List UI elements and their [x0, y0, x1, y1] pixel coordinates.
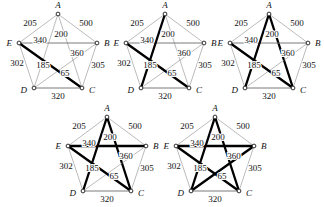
- panel-2: 20550020034036030218565305320ABCDE: [110, 0, 220, 104]
- edge-weight-ac: 200: [161, 29, 175, 39]
- graph-canvas-5: 20550020034036030218565305320ABCDE: [160, 103, 270, 207]
- vertex-label-a: A: [265, 0, 272, 10]
- vertex-a: [163, 12, 167, 16]
- vertex-a: [213, 115, 217, 119]
- vertex-a: [267, 12, 271, 16]
- vertex-d: [139, 86, 143, 90]
- edge-weight-ac: 200: [103, 132, 117, 142]
- vertex-d: [243, 86, 247, 90]
- edge-weight-ed: 302: [117, 58, 131, 68]
- vertex-label-a: A: [103, 103, 110, 113]
- edge-weight-ad: 185: [193, 163, 207, 173]
- edge-weight-ec: 65: [110, 171, 120, 181]
- vertex-label-a: A: [211, 103, 218, 113]
- edge-ad-selected: [191, 117, 215, 191]
- edge-weight-ae: 205: [23, 18, 37, 28]
- vertex-label-c: C: [300, 85, 307, 95]
- edge-weight-eb: 340: [190, 138, 204, 148]
- vertex-d: [189, 189, 193, 193]
- edge-weight-ed: 302: [221, 58, 235, 68]
- vertex-c: [129, 189, 133, 193]
- edge-weight-ab: 500: [186, 18, 200, 28]
- vertex-c: [80, 86, 84, 90]
- vertex-e: [17, 41, 21, 45]
- vertex-c: [237, 189, 241, 193]
- vertex-d: [32, 86, 36, 90]
- edge-weight-db: 360: [227, 151, 241, 161]
- graph-canvas-1: 20550020034036030218565305320ABCDE: [3, 0, 113, 104]
- edge-weight-ae: 205: [180, 121, 194, 131]
- edge-ad: [34, 14, 58, 88]
- edge-weight-ad: 185: [36, 60, 50, 70]
- edge-weight-ad: 185: [85, 163, 99, 173]
- graph-canvas-3: 20550020034036030218565305320ABCDE: [214, 0, 324, 104]
- vertex-label-e: E: [55, 141, 62, 151]
- edge-weight-ae: 205: [72, 121, 86, 131]
- edge-weight-eb: 340: [82, 138, 96, 148]
- edge-weight-dc: 320: [262, 91, 276, 101]
- edge-weight-ac: 200: [54, 29, 68, 39]
- edge-weight-ec: 65: [61, 68, 71, 78]
- panel-4: 20550020034036030218565305320ABCDE: [52, 103, 162, 207]
- vertex-label-b: B: [153, 141, 159, 151]
- vertex-label-b: B: [315, 38, 321, 48]
- edge-weight-eb: 340: [244, 35, 258, 45]
- vertex-b: [95, 41, 99, 45]
- vertex-label-d: D: [69, 188, 77, 198]
- edge-weight-db: 360: [70, 48, 84, 58]
- edge-weight-ed: 302: [59, 161, 73, 171]
- graph-canvas-4: 20550020034036030218565305320ABCDE: [52, 103, 162, 207]
- edge-weight-dc: 320: [51, 91, 65, 101]
- edge-weight-ad: 185: [247, 60, 261, 70]
- vertex-label-a: A: [54, 0, 61, 10]
- edge-weight-db: 360: [177, 48, 191, 58]
- graph-canvas-2: 20550020034036030218565305320ABCDE: [110, 0, 220, 104]
- edge-weight-db: 360: [281, 48, 295, 58]
- edge-weight-ed: 302: [10, 58, 24, 68]
- edge-weight-dc: 320: [158, 91, 172, 101]
- edge-weight-db: 360: [119, 151, 133, 161]
- edge-weight-ab: 500: [128, 121, 142, 131]
- edge-weight-ae: 205: [234, 18, 248, 28]
- edge-weight-ed: 302: [167, 161, 181, 171]
- vertex-e: [66, 144, 70, 148]
- vertex-label-c: C: [138, 188, 145, 198]
- edge-weight-ec: 65: [218, 171, 228, 181]
- vertex-label-c: C: [196, 85, 203, 95]
- vertex-b: [306, 41, 310, 45]
- edge-weight-bc: 305: [140, 163, 154, 173]
- edge-weight-ec: 65: [168, 68, 178, 78]
- edge-weight-eb: 340: [33, 35, 47, 45]
- edge-weight-ac: 200: [265, 29, 279, 39]
- vertex-label-c: C: [89, 85, 96, 95]
- edge-weight-dc: 320: [100, 194, 114, 204]
- edge-ad-selected: [83, 117, 107, 191]
- graph-sequence-figure: 20550020034036030218565305320ABCDE205500…: [0, 0, 324, 207]
- vertex-c: [291, 86, 295, 90]
- vertex-c: [187, 86, 191, 90]
- edge-weight-dc: 320: [208, 194, 222, 204]
- vertex-label-a: A: [161, 0, 168, 10]
- edge-ad-selected: [141, 14, 165, 88]
- vertex-b: [144, 144, 148, 148]
- panel-3: 20550020034036030218565305320ABCDE: [214, 0, 324, 104]
- panel-5: 20550020034036030218565305320ABCDE: [160, 103, 270, 207]
- vertex-label-e: E: [163, 141, 170, 151]
- vertex-label-d: D: [127, 85, 135, 95]
- vertex-label-e: E: [113, 38, 120, 48]
- vertex-label-d: D: [177, 188, 185, 198]
- panel-1: 20550020034036030218565305320ABCDE: [3, 0, 113, 104]
- vertex-e: [124, 41, 128, 45]
- edge-weight-ae: 205: [130, 18, 144, 28]
- edge-weight-bc: 305: [91, 60, 105, 70]
- edge-weight-bc: 305: [198, 60, 212, 70]
- edge-ad-selected: [245, 14, 269, 88]
- edge-weight-ac: 200: [211, 132, 225, 142]
- vertex-a: [56, 12, 60, 16]
- vertex-d: [81, 189, 85, 193]
- vertex-label-b: B: [261, 141, 267, 151]
- edge-weight-ec: 65: [272, 68, 282, 78]
- edge-weight-eb: 340: [140, 35, 154, 45]
- vertex-label-e: E: [6, 38, 13, 48]
- edge-weight-ab: 500: [236, 121, 250, 131]
